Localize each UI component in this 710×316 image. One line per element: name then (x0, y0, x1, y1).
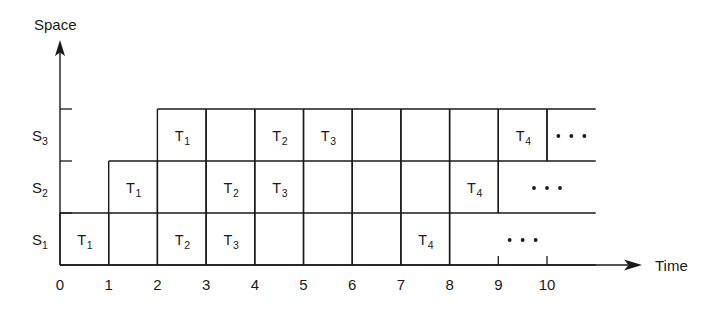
y-axis-tick-label: S (32, 179, 42, 196)
ellipsis-dot (558, 186, 562, 190)
cell-label: T (223, 232, 232, 248)
row-label-group: S1S2S3 (32, 127, 48, 251)
y-axis-tick-label: S (32, 231, 42, 248)
cell-label: T (272, 128, 281, 144)
x-axis-title: Time (655, 257, 688, 274)
ellipsis-dot (556, 134, 560, 138)
cell-label: T (175, 128, 184, 144)
y-axis-title: Space (34, 16, 77, 33)
ellipsis-dot (508, 238, 512, 242)
cell-label: T (126, 180, 135, 196)
cell-label: T (175, 232, 184, 248)
cell-label-subscript: 1 (136, 187, 142, 199)
cell-label-subscript: 3 (282, 187, 288, 199)
cell-label: T (272, 180, 281, 196)
ellipsis-dot (569, 134, 573, 138)
x-axis-tick-label: 1 (105, 276, 113, 293)
x-axis-tick-label: 10 (539, 276, 556, 293)
ellipsis-dot (545, 186, 549, 190)
y-axis-tick-label: S (32, 127, 42, 144)
x-axis-tick-label: 4 (251, 276, 259, 293)
ellipsis-dot (582, 134, 586, 138)
cell-label-subscript: 2 (184, 239, 190, 251)
x-axis-tick-label: 6 (348, 276, 356, 293)
cell-label: T (77, 232, 86, 248)
ellipsis-dot (532, 186, 536, 190)
x-axis-tick-label: 3 (202, 276, 210, 293)
cell-label-subscript: 4 (476, 187, 482, 199)
x-axis-tick-label: 7 (397, 276, 405, 293)
y-axis-tick-label-subscript: 2 (42, 187, 48, 199)
x-axis-tick-label: 9 (494, 276, 502, 293)
cell-label-subscript: 3 (233, 239, 239, 251)
cell-label: T (516, 128, 525, 144)
cell-label-subscript: 1 (184, 135, 190, 147)
x-axis-tick-label: 2 (153, 276, 161, 293)
cell-label: T (223, 180, 232, 196)
cell-label: T (418, 232, 427, 248)
space-time-diagram: 012345678910 T1T2T3T4T1T2T3T4T1T2T3T4 S1… (0, 0, 710, 316)
y-axis-tick-label-subscript: 1 (42, 239, 48, 251)
cell-label-subscript: 4 (428, 239, 434, 251)
cell-label-subscript: 2 (282, 135, 288, 147)
y-axis-tick-label-subscript: 3 (42, 135, 48, 147)
cell-label-subscript: 3 (330, 135, 336, 147)
cell-label-subscript: 4 (525, 135, 531, 147)
cell-label: T (467, 180, 476, 196)
x-axis-tick-label: 8 (445, 276, 453, 293)
x-axis-tick-label: 0 (56, 276, 64, 293)
ellipsis-dot (521, 238, 525, 242)
x-axis-tick-label: 5 (299, 276, 307, 293)
diagram-canvas: 012345678910 T1T2T3T4T1T2T3T4T1T2T3T4 S1… (0, 0, 710, 316)
ellipsis-dot (534, 238, 538, 242)
cell-label-subscript: 2 (233, 187, 239, 199)
cell-label-group: T1T2T3T4T1T2T3T4T1T2T3T4 (77, 128, 586, 251)
cell-label: T (321, 128, 330, 144)
cell-label-subscript: 1 (87, 239, 93, 251)
